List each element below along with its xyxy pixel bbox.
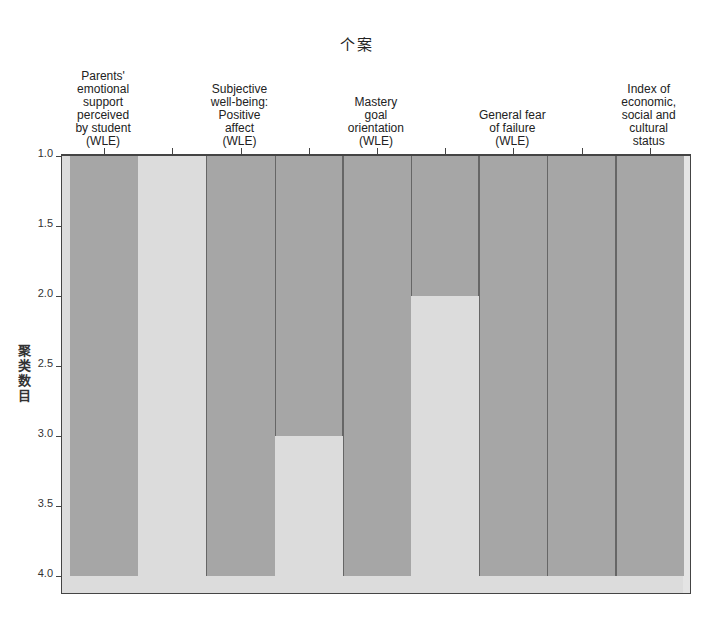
- top-axis-tick: [445, 148, 446, 156]
- cluster-join-bar: [547, 156, 615, 576]
- top-axis-tick: [377, 148, 378, 156]
- y-axis-label: 聚类数目: [16, 343, 32, 403]
- top-axis-tick: [104, 148, 105, 156]
- top-axis-tick: [513, 148, 514, 156]
- case-bar: [343, 156, 411, 576]
- top-axis-tick: [241, 148, 242, 156]
- y-axis-tick-label: 2.0: [23, 287, 53, 299]
- case-bar: [70, 156, 138, 576]
- case-bar: [479, 156, 547, 576]
- plot-right-margin: [683, 156, 690, 593]
- y-axis-tick-label: 4.0: [23, 567, 53, 579]
- y-axis-tick-label: 1.0: [23, 147, 53, 159]
- y-axis-tick-label: 3.0: [23, 427, 53, 439]
- top-axis-tick: [309, 148, 310, 156]
- icicle-plot-area: [61, 154, 691, 594]
- y-axis-tick: [56, 436, 62, 437]
- case-label: Masterygoalorientation(WLE): [321, 96, 431, 148]
- y-axis-tick: [56, 156, 62, 157]
- y-axis-tick: [56, 506, 62, 507]
- top-axis-tick: [582, 148, 583, 156]
- case-label: Parents'emotionalsupportperceivedby stud…: [48, 70, 158, 148]
- cluster-join-bar: [411, 156, 479, 296]
- top-axis-tick: [172, 148, 173, 156]
- case-bar: [616, 156, 684, 576]
- y-axis-tick: [56, 296, 62, 297]
- y-axis-tick-label: 3.5: [23, 497, 53, 509]
- y-axis-tick-label: 1.5: [23, 217, 53, 229]
- cluster-join-bar: [275, 156, 343, 436]
- y-axis-tick-label: 2.5: [23, 357, 53, 369]
- top-axis-tick: [650, 148, 651, 156]
- y-axis-tick: [56, 226, 62, 227]
- case-label: General fearof failure(WLE): [457, 109, 567, 148]
- case-label: Subjectivewell-being:Positiveaffect(WLE): [185, 83, 295, 148]
- chart-title: 个案: [0, 33, 714, 54]
- case-bar: [206, 156, 274, 576]
- case-label: Index ofeconomic,social andculturalstatu…: [594, 83, 704, 148]
- y-axis-tick: [56, 576, 62, 577]
- y-axis-tick: [56, 366, 62, 367]
